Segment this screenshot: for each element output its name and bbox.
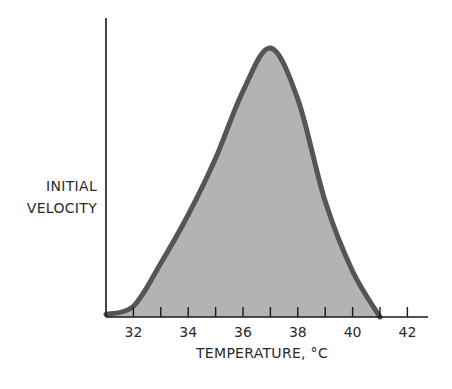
x-tick-label: 36	[234, 324, 252, 340]
x-tick-label: 34	[179, 324, 197, 340]
x-tick-label: 40	[344, 324, 362, 340]
x-tick-label: 42	[398, 324, 416, 340]
x-tick-label: 32	[124, 324, 142, 340]
x-axis-title: TEMPERATURE, °C	[196, 345, 328, 361]
plot-area	[106, 48, 380, 317]
velocity-temperature-chart: 323436384042	[0, 0, 452, 389]
x-tick-label: 38	[289, 324, 307, 340]
